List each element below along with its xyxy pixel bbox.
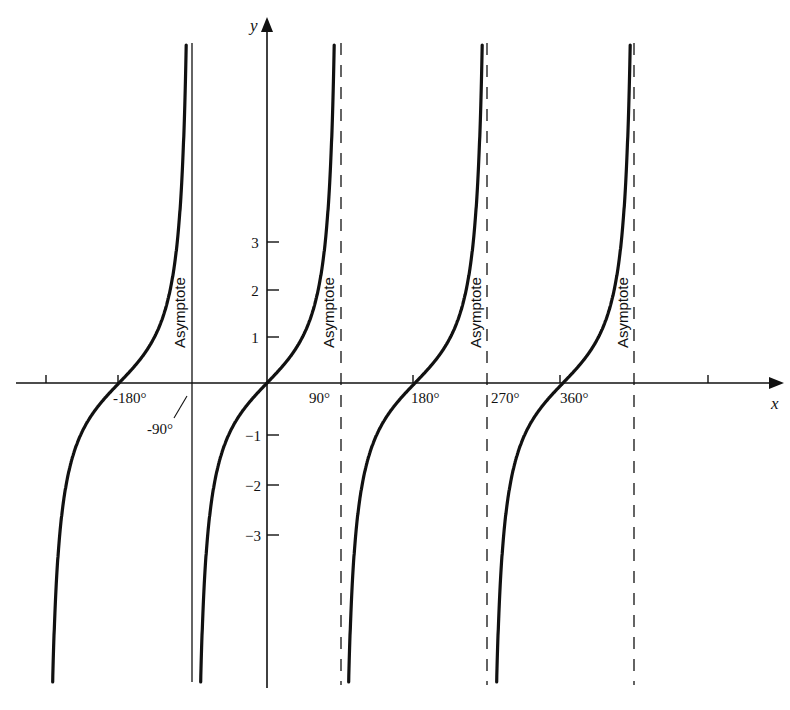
y-tick-label-2: 2 [251,283,259,299]
y-axis-arrow-icon [261,17,273,32]
tangent-graph: y x -180° -90° 90° 180° 270° 360° 3 2 1 … [0,0,790,710]
y-ticks [267,242,279,535]
x-tick-label-180: 180° [411,390,440,406]
x-tick-label-270: 270° [491,390,520,406]
x-axis-label: x [770,394,779,413]
x-tick-label-360: 360° [560,390,589,406]
x-tick-label-neg180: -180° [113,390,147,406]
tan-branch-4 [497,45,631,682]
y-tick-label-neg1: −1 [245,428,261,444]
x-tick-label-90: 90° [309,390,330,406]
asymptote-label-90: Asymptote [320,277,337,348]
asymptote-lines [192,43,634,685]
asymptote-label-270: Asymptote [467,277,484,348]
leader-line-neg90 [174,396,187,418]
tan-branch-3 [349,45,483,682]
y-axis-label: y [248,16,258,35]
asymptote-label-450: Asymptote [614,277,631,348]
tan-branch-1 [53,45,187,682]
y-tick-label-neg2: −2 [245,478,261,494]
asymptote-label-neg90: Asymptote [171,277,188,348]
y-tick-label-neg3: −3 [245,528,261,544]
x-axis [16,375,784,389]
x-axis-arrow-icon [769,377,784,389]
x-ticks [46,375,708,383]
y-tick-label-1: 1 [251,330,259,346]
y-tick-label-3: 3 [251,235,259,251]
y-axis [261,17,279,688]
x-tick-label-neg90: -90° [147,421,173,437]
